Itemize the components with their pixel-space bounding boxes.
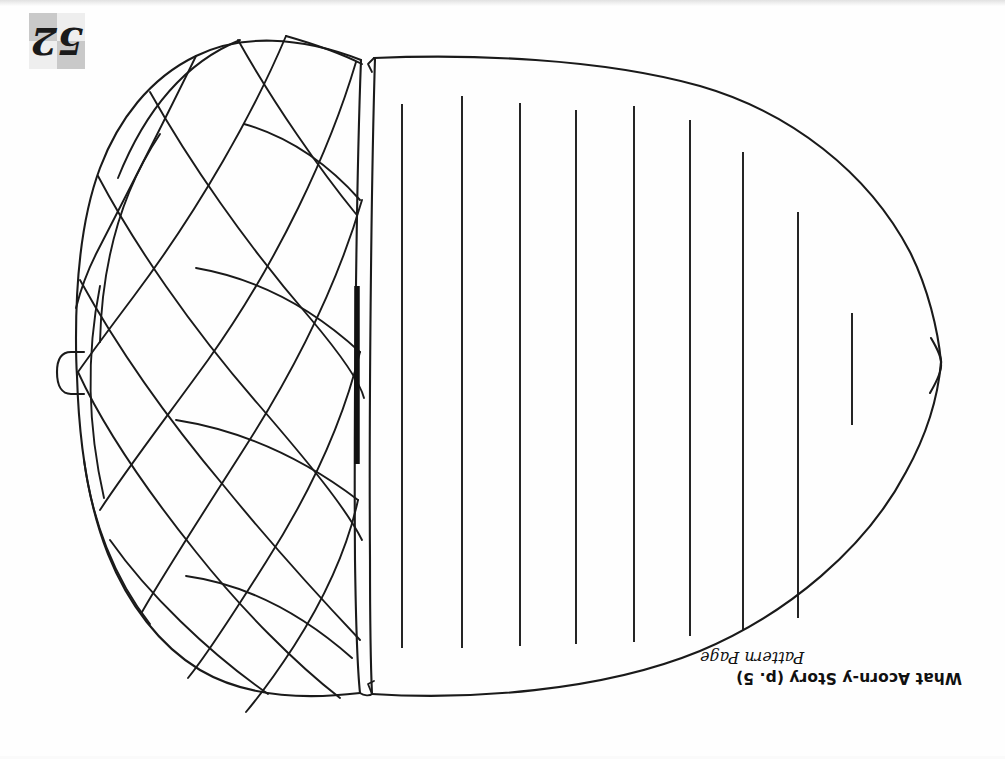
footer-caption-title: What Acorn-y Story (p. 5) — [700, 668, 962, 686]
acorn-pattern-artwork — [0, 0, 1005, 759]
acorn-cap-outline — [76, 41, 361, 696]
nut-texture-lines — [402, 96, 852, 648]
footer-caption: What Acorn-y Story (p. 5) Pattern Page — [700, 648, 962, 686]
nut-top-notch — [368, 58, 374, 72]
cap-rim-band-right-edge — [370, 58, 375, 694]
cap-crosshatch-ascending — [78, 40, 364, 698]
cap-crosshatch-descending — [76, 36, 362, 712]
footer-caption-subtitle: Pattern Page — [700, 648, 962, 667]
cap-rim-band-bottom-cap — [360, 693, 372, 695]
acorn-nut-body-outline — [372, 57, 941, 696]
cap-scale-arcs — [84, 36, 362, 658]
page-number-text: 52 — [29, 13, 85, 69]
page-number-badge: 52 — [29, 13, 85, 69]
scanned-page: 52 What Acorn-y Story (p. 5) Pattern Pag… — [0, 0, 1005, 759]
